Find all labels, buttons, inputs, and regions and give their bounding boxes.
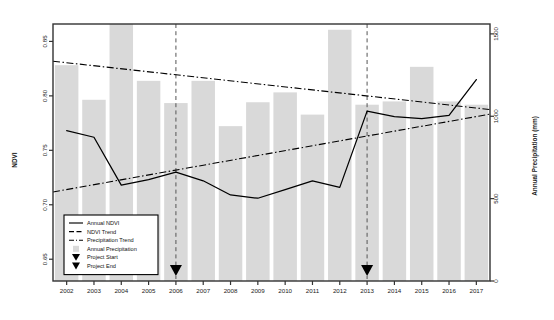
precipitation-bar xyxy=(246,102,269,281)
x-tick-label: 2011 xyxy=(306,287,320,294)
x-tick-label: 2012 xyxy=(333,287,347,294)
x-tick-label: 2009 xyxy=(251,287,265,294)
legend-label: Annual Precipitation xyxy=(87,246,137,252)
x-tick-label: 2003 xyxy=(87,287,101,294)
precipitation-bar xyxy=(383,101,406,281)
y-tick-label: 0.80 xyxy=(41,89,48,102)
precipitation-bar xyxy=(219,126,242,281)
x-tick-label: 2010 xyxy=(278,287,292,294)
precipitation-bar xyxy=(465,105,488,281)
x-tick-label: 2004 xyxy=(114,287,128,294)
x-tick-label: 2007 xyxy=(196,287,210,294)
y2-tick-label: 1500 xyxy=(492,26,499,40)
x-tick-label: 2015 xyxy=(415,287,429,294)
y-tick-label: 0.85 xyxy=(41,35,48,48)
y-axis-right: 050010001500 xyxy=(490,26,499,282)
x-tick-label: 2013 xyxy=(360,287,374,294)
y-axis-left: 0.650.700.750.800.85 xyxy=(41,35,53,265)
precipitation-bar xyxy=(437,101,460,281)
precipitation-bar xyxy=(410,67,433,281)
y2-tick-label: 0 xyxy=(492,279,499,283)
legend-label: Project End xyxy=(87,263,116,269)
chart-legend: Annual NDVINDVI TrendPrecipitation Trend… xyxy=(64,215,158,275)
x-tick-label: 2017 xyxy=(469,287,483,294)
y2-tick-label: 500 xyxy=(492,193,499,204)
x-tick-label: 2016 xyxy=(442,287,456,294)
x-tick-label: 2014 xyxy=(388,287,402,294)
y-axis-right-title: Annual Precipitation (mm) xyxy=(531,116,539,196)
chart-root: 0.650.700.750.800.85 050010001500 200220… xyxy=(0,0,554,320)
x-tick-label: 2005 xyxy=(142,287,156,294)
y2-tick-label: 1000 xyxy=(492,109,499,123)
legend-symbol-gray-square xyxy=(73,246,79,252)
precipitation-bar xyxy=(328,30,351,281)
legend-label: NDVI Trend xyxy=(87,229,116,235)
x-tick-label: 2008 xyxy=(224,287,238,294)
x-tick-label: 2006 xyxy=(169,287,183,294)
precipitation-bar xyxy=(301,115,324,281)
y-tick-label: 0.65 xyxy=(41,253,48,266)
y-tick-label: 0.70 xyxy=(41,198,48,211)
x-tick-label: 2002 xyxy=(60,287,74,294)
x-axis: 2002200320042005200620072008200920102011… xyxy=(60,281,484,294)
y-tick-label: 0.75 xyxy=(41,144,48,157)
y-axis-left-title: NDVI xyxy=(11,152,18,167)
legend-label: Project Start xyxy=(87,254,118,260)
legend-label: Annual NDVI xyxy=(87,220,120,226)
legend-label: Precipitation Trend xyxy=(87,237,134,243)
ndvi-precipitation-chart: 0.650.700.750.800.85 050010001500 200220… xyxy=(0,0,554,320)
